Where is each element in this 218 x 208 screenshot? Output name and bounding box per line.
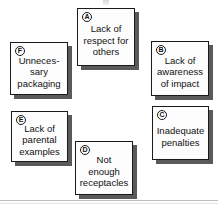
card-body[interactable]: D Not enough receptacles bbox=[75, 141, 133, 195]
idea-card-b[interactable]: B Lack of awareness of impact bbox=[151, 41, 209, 96]
card-badge-b: B bbox=[156, 45, 166, 55]
card-body[interactable]: A Lack of respect for others bbox=[77, 8, 135, 66]
idea-card-d[interactable]: D Not enough receptacles bbox=[75, 141, 133, 195]
card-badge-d: D bbox=[80, 145, 90, 155]
bottom-divider bbox=[0, 200, 218, 201]
card-body[interactable]: C Inadequate penalties bbox=[152, 106, 209, 160]
card-badge-c: C bbox=[157, 110, 167, 120]
card-label-a: Lack of respect for others bbox=[82, 23, 131, 58]
card-label-e: Lack of parental examples bbox=[17, 123, 62, 158]
top-crop-artifact bbox=[103, 0, 109, 5]
idea-card-c[interactable]: C Inadequate penalties bbox=[152, 106, 209, 160]
card-body[interactable]: B Lack of awareness of impact bbox=[151, 41, 209, 96]
idea-card-e[interactable]: E Lack of parental examples bbox=[11, 111, 68, 162]
bottom-divider-secondary bbox=[0, 203, 218, 204]
idea-card-a[interactable]: A Lack of respect for others bbox=[77, 8, 135, 66]
card-badge-a: A bbox=[82, 12, 92, 22]
card-label-f: Unneces- sary packaging bbox=[15, 55, 62, 90]
card-badge-f: F bbox=[15, 46, 25, 56]
idea-card-f[interactable]: F Unneces- sary packaging bbox=[10, 42, 68, 95]
card-label-b: Lack of awareness of impact bbox=[155, 55, 205, 90]
card-label-c: Inadequate penalties bbox=[155, 125, 207, 148]
diagram-canvas: A Lack of respect for others B Lack of a… bbox=[0, 0, 218, 208]
card-body[interactable]: F Unneces- sary packaging bbox=[10, 42, 68, 95]
card-badge-e: E bbox=[16, 115, 26, 125]
card-label-d: Not enough receptacles bbox=[78, 154, 131, 189]
card-body[interactable]: E Lack of parental examples bbox=[11, 111, 68, 162]
